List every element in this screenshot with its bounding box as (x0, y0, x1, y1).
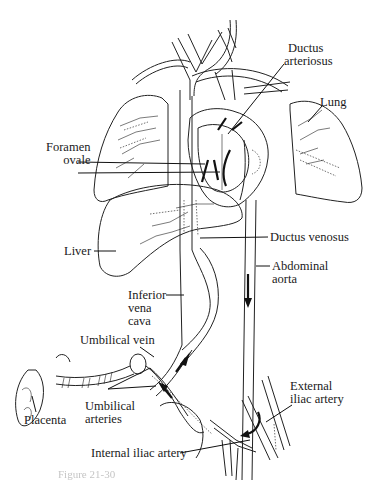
label-inferior-vena-cava: Inferior vena cava (128, 289, 166, 328)
label-line: iliac artery (290, 393, 344, 406)
abdominal-aorta (242, 200, 256, 480)
liver (98, 184, 242, 276)
label-line: arteriosus (284, 55, 333, 68)
label-foramen-ovale: Foramen ovale (46, 141, 90, 167)
great-vessels (132, 20, 290, 250)
label-ductus-arteriosus: Ductus arteriosus (288, 42, 333, 68)
right-lung (290, 101, 362, 202)
figure-caption: Figure 21-30 (58, 468, 115, 480)
label-external-iliac-artery: External iliac artery (290, 380, 344, 406)
label-placenta: Placenta (24, 414, 66, 427)
label-umbilical-arteries: Umbilical arteries (85, 400, 135, 426)
label-lung: Lung (320, 96, 346, 109)
label-abdominal-aorta: Abdominal aorta (272, 260, 328, 286)
heart (188, 109, 268, 207)
label-ductus-venosus: Ductus venosus (270, 231, 349, 244)
label-line: ovale (46, 154, 90, 167)
label-liver: Liver (64, 245, 91, 258)
label-line: aorta (272, 273, 328, 286)
label-internal-iliac-artery: Internal iliac artery (91, 447, 187, 460)
label-line: cava (128, 315, 166, 328)
label-line: arteries (85, 413, 135, 426)
label-umbilical-vein: Umbilical vein (80, 334, 155, 347)
iliac-arteries (210, 376, 290, 480)
